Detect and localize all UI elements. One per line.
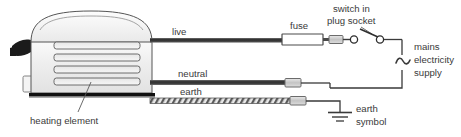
switch-label-line1: switch in [333,3,370,14]
switch-label-line2: plug socket [327,15,376,26]
mains-supply: mains electricity supply [330,40,454,89]
heating-element-slot [54,66,140,73]
earth-connector [290,97,306,106]
mains-bracket-lower [330,70,402,88]
toaster-base-shadow [29,97,155,98]
ac-symbol-icon [396,58,410,64]
neutral-label: neutral [178,68,207,79]
toaster-appliance: heating element [10,11,155,126]
fuse-label: fuse [290,20,308,31]
switch-blade[interactable] [360,29,378,37]
fuse-body [282,34,323,45]
live-lead-after-fuse [323,38,329,41]
earth-circuit: earth earth symbol [150,86,386,127]
neutral-circuit: neutral [150,68,330,88]
toaster-lever-stem [10,46,16,56]
toaster-wiring-diagram: heating element live fuse switch in plug… [0,0,461,137]
heating-element-slot [54,54,140,61]
neutral-cable [150,80,285,85]
mains-label-line3: supply [414,67,442,78]
live-label: live [172,26,186,37]
diagram-canvas: heating element live fuse switch in plug… [0,0,461,137]
live-cable [150,38,282,43]
switch-terminal-left [350,36,357,43]
mains-label-line2: electricity [414,54,454,65]
toaster-base [29,93,155,97]
earth-label: earth [180,86,202,97]
heating-element-slot [54,42,140,49]
neutral-connector [285,79,301,88]
heating-element-slot [54,78,140,85]
heating-element-label: heating element [30,115,99,126]
live-connector [329,36,343,44]
mains-label-line1: mains [414,41,440,52]
earth-lead [306,101,340,112]
live-circuit: live fuse [150,20,351,45]
earth-cable [150,98,290,104]
earth-symbol-label-line1: earth [356,103,378,114]
earth-symbol-label-line2: symbol [356,116,386,127]
